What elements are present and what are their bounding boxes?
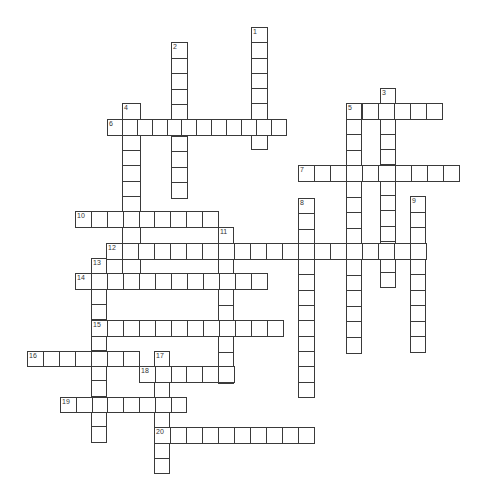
grid-cell[interactable]: 13 xyxy=(91,258,107,274)
grid-cell[interactable]: 2 xyxy=(171,42,188,59)
grid-cell[interactable] xyxy=(380,226,396,242)
grid-cell[interactable] xyxy=(123,397,140,413)
grid-cell[interactable] xyxy=(171,182,188,199)
grid-cell[interactable] xyxy=(346,259,362,276)
grid-cell[interactable] xyxy=(91,273,108,290)
grid-cell[interactable] xyxy=(410,243,427,260)
grid-cell[interactable] xyxy=(122,227,141,244)
grid-cell[interactable] xyxy=(378,243,395,260)
grid-cell[interactable] xyxy=(410,336,426,353)
grid-cell[interactable] xyxy=(123,211,140,228)
grid-cell[interactable] xyxy=(380,210,396,226)
grid-cell[interactable] xyxy=(241,119,257,136)
grid-cell[interactable] xyxy=(443,165,460,182)
grid-cell[interactable] xyxy=(91,411,107,427)
grid-cell[interactable] xyxy=(170,243,187,260)
grid-cell[interactable] xyxy=(298,382,315,398)
grid-cell[interactable] xyxy=(378,103,395,120)
grid-cell[interactable] xyxy=(203,273,220,290)
grid-cell[interactable] xyxy=(107,351,124,367)
grid-cell[interactable] xyxy=(380,149,396,165)
grid-cell[interactable] xyxy=(346,181,362,198)
grid-cell[interactable] xyxy=(378,165,395,182)
grid-cell[interactable] xyxy=(43,351,60,367)
grid-cell[interactable] xyxy=(91,380,107,396)
grid-cell[interactable] xyxy=(91,304,107,320)
grid-cell[interactable] xyxy=(298,351,315,367)
grid-cell[interactable] xyxy=(380,180,396,196)
grid-cell[interactable] xyxy=(107,211,124,228)
grid-cell[interactable]: 8 xyxy=(298,198,315,214)
grid-cell[interactable]: 10 xyxy=(75,211,92,228)
grid-cell[interactable] xyxy=(202,211,219,228)
grid-cell[interactable] xyxy=(362,165,379,182)
grid-cell[interactable] xyxy=(155,320,172,337)
grid-cell[interactable]: 19 xyxy=(60,397,77,413)
grid-cell[interactable] xyxy=(226,119,242,136)
grid-cell[interactable]: 15 xyxy=(91,320,108,337)
grid-cell[interactable] xyxy=(362,103,379,120)
grid-cell[interactable]: 4 xyxy=(122,103,141,120)
grid-cell[interactable] xyxy=(202,366,219,383)
grid-cell[interactable]: 1 xyxy=(251,27,268,43)
grid-cell[interactable] xyxy=(123,351,140,367)
grid-cell[interactable] xyxy=(171,366,188,383)
grid-cell[interactable] xyxy=(251,273,268,290)
grid-cell[interactable] xyxy=(298,305,315,321)
grid-cell[interactable] xyxy=(186,211,203,228)
grid-cell[interactable] xyxy=(346,212,362,229)
grid-cell[interactable] xyxy=(154,243,171,260)
grid-cell[interactable] xyxy=(196,119,212,136)
grid-cell[interactable] xyxy=(122,181,141,198)
grid-cell[interactable] xyxy=(123,320,140,337)
grid-cell[interactable] xyxy=(346,134,362,151)
grid-cell[interactable]: 16 xyxy=(27,351,44,367)
grid-cell[interactable] xyxy=(251,73,268,89)
grid-cell[interactable] xyxy=(139,320,156,337)
grid-cell[interactable] xyxy=(75,351,92,367)
grid-cell[interactable] xyxy=(410,321,426,338)
grid-cell[interactable] xyxy=(346,306,362,323)
grid-cell[interactable] xyxy=(298,336,315,352)
grid-cell[interactable] xyxy=(171,58,188,75)
grid-cell[interactable] xyxy=(314,243,331,260)
grid-cell[interactable] xyxy=(171,320,188,337)
grid-cell[interactable] xyxy=(298,427,315,444)
grid-cell[interactable] xyxy=(154,458,170,474)
grid-cell[interactable] xyxy=(167,119,183,136)
grid-cell[interactable] xyxy=(123,273,140,290)
grid-cell[interactable] xyxy=(380,195,396,211)
grid-cell[interactable]: 17 xyxy=(154,351,170,367)
grid-cell[interactable] xyxy=(219,273,236,290)
grid-cell[interactable] xyxy=(251,134,268,150)
grid-cell[interactable] xyxy=(298,243,315,260)
grid-cell[interactable] xyxy=(251,103,268,119)
grid-cell[interactable] xyxy=(426,103,443,120)
grid-cell[interactable] xyxy=(186,366,203,383)
grid-cell[interactable] xyxy=(219,320,236,337)
grid-cell[interactable]: 5 xyxy=(346,103,362,120)
grid-cell[interactable] xyxy=(139,397,156,413)
grid-cell[interactable] xyxy=(138,243,155,260)
grid-cell[interactable] xyxy=(394,103,411,120)
grid-cell[interactable] xyxy=(155,397,172,413)
grid-cell[interactable] xyxy=(154,443,170,459)
grid-cell[interactable] xyxy=(298,213,315,229)
grid-cell[interactable] xyxy=(122,165,141,182)
grid-cell[interactable] xyxy=(346,337,362,354)
grid-cell[interactable] xyxy=(380,119,396,135)
grid-cell[interactable] xyxy=(218,336,234,353)
grid-cell[interactable]: 11 xyxy=(218,227,234,244)
grid-cell[interactable] xyxy=(314,165,331,182)
grid-cell[interactable] xyxy=(234,243,251,260)
grid-cell[interactable] xyxy=(346,321,362,338)
grid-cell[interactable] xyxy=(410,305,426,322)
grid-cell[interactable] xyxy=(250,427,267,444)
grid-cell[interactable] xyxy=(298,259,315,275)
grid-cell[interactable]: 18 xyxy=(139,366,156,383)
grid-cell[interactable] xyxy=(251,320,268,337)
grid-cell[interactable] xyxy=(282,243,299,260)
grid-cell[interactable] xyxy=(91,426,107,442)
grid-cell[interactable] xyxy=(155,273,172,290)
grid-cell[interactable] xyxy=(202,427,219,444)
